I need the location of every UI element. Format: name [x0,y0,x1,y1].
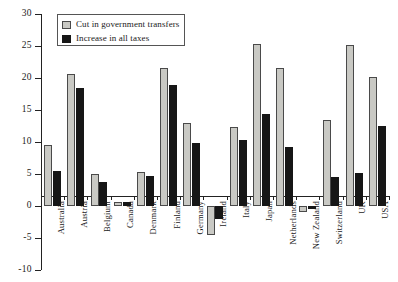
bar-japan-transfers [253,44,261,206]
legend-label-1: Increase in all taxes [76,34,149,43]
y-tick-label: -10 [2,265,32,274]
x-tick-label-uk: UK [358,201,367,214]
bar-finland-transfers [160,68,168,206]
x-tick-label-finland: Finland [173,201,182,229]
y-axis-line [41,14,42,270]
bar-germany-taxes [192,143,200,206]
x-tick-label-austria: Austria [80,201,89,228]
bar-switzerland-transfers [323,120,331,206]
bar-uk-transfers [346,45,354,206]
y-tick-label: 30 [2,9,32,18]
y-tick-label: 25 [2,41,32,50]
y-tick-label: 5 [2,169,32,178]
bar-usa-taxes [378,126,386,206]
bar-austria-transfers [67,74,75,206]
x-tick [273,196,274,200]
x-tick [157,196,158,200]
y-tick-label: 20 [2,73,32,82]
y-tick [35,238,41,239]
y-tick [35,206,41,207]
legend-swatch-grey [62,21,71,29]
legend-label-0: Cut in government transfers [76,20,179,29]
x-tick-label-ireland: Ireland [219,201,228,227]
y-tick [35,78,41,79]
x-tick-label-netherlands: Netherlands [289,201,298,245]
bar-belgium-transfers [91,174,99,206]
x-tick [180,196,181,200]
x-tick-label-belgium: Belgium [103,201,112,232]
x-tick [227,196,228,200]
x-tick-label-new-zealand: New Zealand [312,201,321,249]
x-tick [41,196,42,200]
y-tick-label: -5 [2,233,32,242]
x-tick-label-switzerland: Switzerland [335,201,344,244]
x-tick [296,196,297,200]
bar-new-zealand-transfers [299,206,307,212]
y-tick [35,14,41,15]
x-tick-label-denmark: Denmark [149,201,158,234]
y-tick [35,46,41,47]
y-tick [35,174,41,175]
x-tick [250,196,251,200]
x-tick-label-italy: Italy [242,201,251,218]
bar-canada-transfers [114,202,122,206]
bar-australia-transfers [44,145,52,206]
bar-japan-taxes [262,114,270,206]
x-tick-label-japan: Japan [265,201,274,222]
x-tick [366,196,367,200]
y-tick-label: 10 [2,137,32,146]
x-tick [203,196,204,200]
y-tick [35,142,41,143]
x-tick [87,196,88,200]
bar-ireland-transfers [207,206,215,235]
bar-netherlands-taxes [285,147,293,206]
bar-italy-transfers [230,127,238,206]
x-tick [64,196,65,200]
legend-item-1: Increase in all taxes [62,32,180,45]
x-tick [343,196,344,200]
x-tick-label-germany: Germany [196,201,205,234]
bar-netherlands-transfers [276,68,284,206]
x-tick [319,196,320,200]
y-tick [35,270,41,271]
bar-denmark-transfers [137,172,145,206]
x-tick [111,196,112,200]
x-tick-label-australia: Australia [57,201,66,234]
x-tick-label-canada: Canada [126,201,135,228]
chart-legend: Cut in government transfers Increase in … [57,14,185,46]
bar-italy-taxes [239,140,247,206]
bar-austria-taxes [76,88,84,206]
legend-item-0: Cut in government transfers [62,18,180,31]
x-tick-label-usa: USA [381,201,390,219]
x-tick [389,196,390,200]
bar-chart: 302520151050-5-10 AustraliaAustriaBelgiu… [0,0,398,282]
x-tick [134,196,135,200]
bar-germany-transfers [183,123,191,206]
y-tick-label: 15 [2,105,32,114]
bar-usa-transfers [369,77,377,206]
bar-finland-taxes [169,85,177,206]
y-tick [35,110,41,111]
legend-swatch-dark [62,35,71,43]
y-tick-label: 0 [2,201,32,210]
